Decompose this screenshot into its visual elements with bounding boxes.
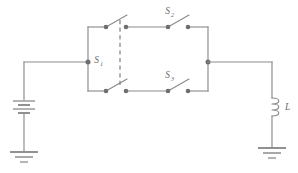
battery-symbol [13,101,35,113]
lower-branch [104,79,208,93]
contact-dot [166,89,171,94]
left-source-branch [10,62,88,162]
inductor-coil-symbol [272,98,279,116]
label-s3-symbol: S [165,70,170,80]
switch-s1-upper-pole[interactable] [104,15,129,29]
label-s2-subscript: 2 [171,11,174,18]
ground-left-symbol [10,152,38,162]
switch-s1-lower-pole[interactable] [104,79,129,93]
circuit-diagram: S 1 S 2 S 3 L [0,0,298,173]
label-s1-symbol: S [94,55,99,65]
contact-dot [104,89,109,94]
label-s2-symbol: S [165,6,170,16]
contact-dot [104,25,109,30]
label-s3-subscript: 3 [170,75,174,82]
label-s1: S 1 [94,55,103,67]
node-left-rail [86,60,91,65]
right-load-branch [208,62,286,158]
contact-dot [186,25,191,30]
contact-dot [186,89,191,94]
label-load-symbol: L [284,102,290,112]
label-s3: S 3 [165,70,174,82]
ground-right-symbol [258,148,286,158]
label-s1-subscript: 1 [100,60,103,67]
contact-dot [124,25,129,30]
label-s2: S 2 [165,6,174,18]
circuit-schematic-canvas: S 1 S 2 S 3 L [0,0,298,173]
switch-s3[interactable] [166,79,191,93]
parallel-network-rails [88,27,208,91]
upper-branch [104,15,208,29]
contact-dot [124,89,129,94]
contact-dot [166,25,171,30]
label-load: L [284,102,290,112]
switch-s2[interactable] [166,15,191,29]
